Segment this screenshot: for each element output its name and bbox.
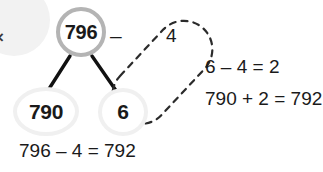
minus-operator: – — [110, 24, 122, 48]
work-line-2: 790 + 2 = 792 — [205, 88, 322, 110]
node-tens-790[interactable]: 790 — [13, 87, 79, 136]
node-tens-label: 790 — [29, 100, 63, 124]
node-ones-label: 6 — [117, 100, 128, 124]
node-root-label: 796 — [65, 21, 97, 44]
node-ones-6[interactable]: 6 — [98, 88, 148, 136]
result-equation: 796 – 4 = 792 — [19, 140, 136, 162]
work-line-1: 6 – 4 = 2 — [205, 56, 279, 78]
node-root-796[interactable]: 796 — [56, 7, 106, 57]
subtrahend-value: 4 — [166, 25, 177, 47]
diagram-canvas: × 796 790 6 – 4 6 – 4 = 2 790 + 2 = 792 … — [0, 0, 323, 172]
